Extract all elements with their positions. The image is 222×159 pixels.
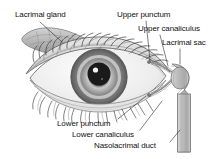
label-upper-punctum: Upper punctum — [117, 10, 170, 19]
label-lacrimal-sac: Lacrimal sac — [162, 38, 206, 47]
label-upper-canaliculus: Upper canaliculus — [138, 24, 200, 33]
label-lower-canaliculus: Lower canaliculus — [72, 130, 134, 139]
label-nasolacrimal-duct: Nasolacrimal duct — [94, 141, 156, 150]
leader-lower-canaliculus — [140, 101, 162, 130]
lacrimal-sac-and-duct — [171, 64, 191, 152]
label-lower-punctum: Lower punctum — [57, 119, 110, 128]
anatomical-diagram: Lacrimal gland Upper punctum Upper canal… — [0, 0, 222, 159]
label-lacrimal-gland: Lacrimal gland — [15, 10, 66, 19]
pupil — [88, 63, 111, 86]
iris — [71, 49, 127, 105]
